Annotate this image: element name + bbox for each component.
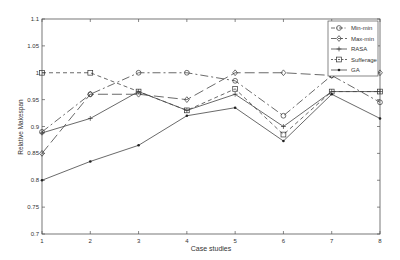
series-line <box>42 92 380 133</box>
y-tick-label: 0.9 <box>31 124 40 130</box>
x-tick-label: 4 <box>185 238 189 244</box>
star-marker <box>330 93 333 96</box>
line-chart: 0.70.750.80.850.90.9511.051.112345678 Mi… <box>0 0 400 260</box>
x-tick-label: 8 <box>378 238 382 244</box>
series-ga <box>41 93 382 182</box>
x-tick-label: 3 <box>137 238 141 244</box>
star-marker <box>89 160 92 163</box>
star-marker <box>234 106 237 109</box>
series-sufferage <box>40 70 383 137</box>
legend-label: GA <box>351 67 360 73</box>
x-tick-label: 2 <box>89 238 93 244</box>
x-axis-label: Case studies <box>191 245 232 252</box>
star-marker <box>186 114 189 117</box>
star-marker <box>41 179 44 182</box>
series-line <box>42 94 380 180</box>
series-line <box>42 73 380 135</box>
legend-label: Max-min <box>351 36 374 42</box>
series-line <box>42 73 380 154</box>
y-tick-label: 0.95 <box>27 97 39 103</box>
legend-label: RASA <box>351 46 367 52</box>
star-marker <box>282 140 285 143</box>
y-tick-label: 0.7 <box>31 231 40 237</box>
y-tick-label: 1.05 <box>27 43 39 49</box>
x-tick-label: 5 <box>233 238 237 244</box>
circle-marker <box>281 113 286 118</box>
star-marker <box>379 117 382 120</box>
y-tick-label: 0.75 <box>27 204 39 210</box>
y-tick-label: 1 <box>36 70 40 76</box>
legend-label: Min-min <box>351 25 372 31</box>
y-tick-label: 0.85 <box>27 150 39 156</box>
series-max-min <box>40 70 383 156</box>
x-tick-label: 1 <box>40 238 44 244</box>
chart-canvas: 0.70.750.80.850.90.9511.051.112345678 Mi… <box>0 0 400 260</box>
square-marker <box>88 70 93 75</box>
y-tick-label: 1.1 <box>31 16 40 22</box>
star-marker <box>338 69 341 72</box>
legend-label: Sufferage <box>351 57 378 63</box>
legend: Min-minMax-minRASASufferageGA <box>328 21 378 76</box>
x-tick-label: 6 <box>282 238 286 244</box>
star-marker <box>137 144 140 147</box>
y-axis-label: Relative Makespan <box>17 99 25 155</box>
y-tick-label: 0.8 <box>31 177 40 183</box>
series-lines <box>40 70 383 182</box>
x-tick-label: 7 <box>330 238 334 244</box>
